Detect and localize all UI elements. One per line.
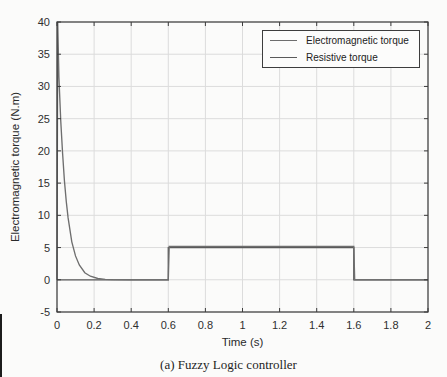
legend-item-electromagnetic: Electromagnetic torque [263, 34, 419, 48]
scan-edge-artifact [0, 314, 2, 377]
x-tick-label: 0.4 [124, 319, 139, 331]
x-tick-label: 0.8 [198, 319, 213, 331]
figure-caption: (a) Fuzzy Logic controller [10, 357, 447, 373]
y-tick-label: 20 [38, 145, 50, 157]
legend-line-sample-resistive [270, 57, 297, 58]
y-tick-label: 30 [38, 80, 50, 92]
y-tick-label: 10 [38, 209, 50, 221]
x-axis-label: Time (s) [57, 336, 428, 348]
x-tick-label: 1.4 [309, 319, 324, 331]
x-tick-label: 1.6 [346, 319, 361, 331]
x-tick-label: 2 [425, 319, 431, 331]
x-tick-label: 1 [239, 319, 245, 331]
x-tick-label: 0.2 [86, 319, 101, 331]
y-tick-label: 35 [38, 48, 50, 60]
x-tick-label: 0.6 [161, 319, 176, 331]
legend-line-sample-electromagnetic [270, 40, 297, 41]
x-tick-label: 1.8 [383, 319, 398, 331]
x-tick-label: 0 [54, 319, 60, 331]
x-tick-labels: 00.20.40.60.811.21.41.61.82 [54, 319, 431, 331]
legend: Electromagnetic torque Resistive torque [262, 30, 420, 68]
y-tick-label: 5 [44, 242, 50, 254]
y-tick-label: 40 [38, 16, 50, 28]
y-tick-label: 25 [38, 113, 50, 125]
y-tick-label: -5 [40, 306, 50, 318]
x-tick-label: 1.2 [272, 319, 287, 331]
y-tick-label: 15 [38, 177, 50, 189]
legend-label: Resistive torque [306, 52, 378, 63]
y-tick-label: 0 [44, 274, 50, 286]
y-axis-label: Electromagnetic torque (N.m) [9, 92, 21, 242]
legend-item-resistive: Resistive torque [263, 51, 419, 65]
y-tick-labels: -50510152025303540 [38, 16, 50, 318]
legend-label: Electromagnetic torque [306, 35, 409, 46]
torque-figure: 00.20.40.60.811.21.41.61.82-505101520253… [0, 0, 447, 377]
